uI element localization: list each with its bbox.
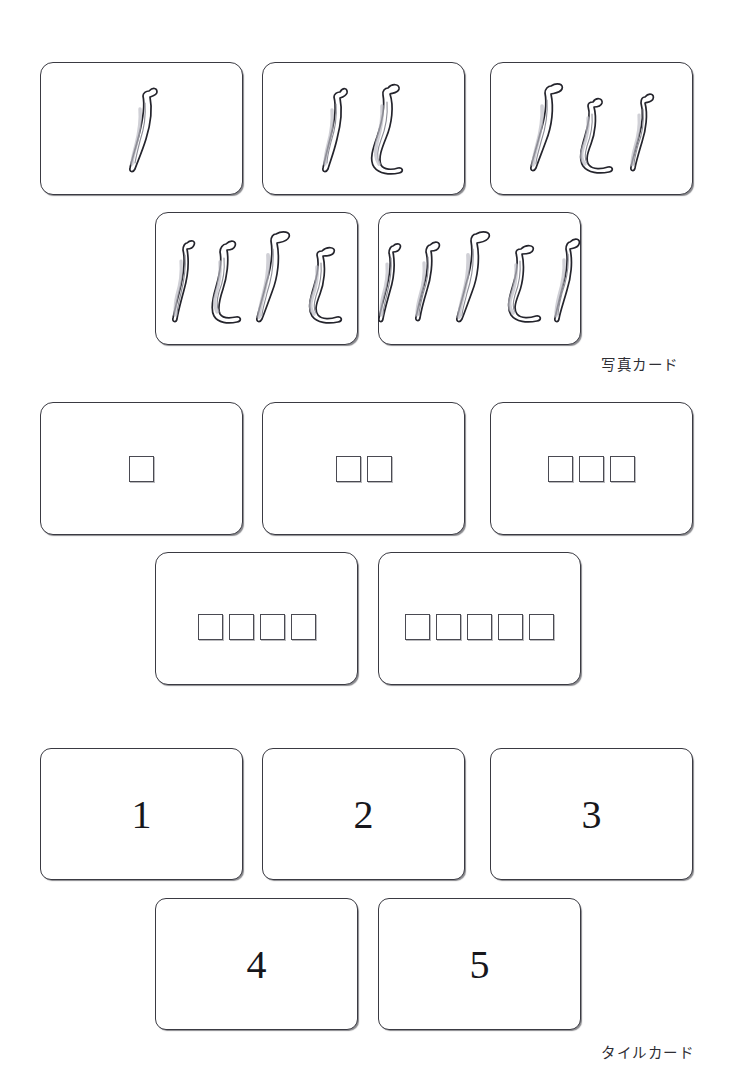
tile-group-2 [263,403,464,534]
banana-icon [119,83,165,175]
tile-square [129,456,154,482]
photo-card-2[interactable] [262,62,465,195]
numeral-value: 5 [379,899,580,1029]
tile-group-4 [156,561,357,692]
number-card-5[interactable]: 5 [378,898,581,1030]
section-number-cards: 1 2 3 4 5 数字カード [0,725,741,1045]
tile-square [436,614,461,640]
banana-icon [166,233,202,325]
caption-photo-cards: 写真カード [601,353,679,374]
tile-square [405,614,430,640]
tile-square [336,456,361,482]
numeral-value: 4 [156,899,357,1029]
number-card-2[interactable]: 2 [262,748,465,880]
tile-square [229,614,254,640]
numeral-value: 2 [263,749,464,879]
banana-group-1 [41,63,242,194]
tile-group-5 [379,561,580,692]
photo-card-4[interactable] [155,212,358,345]
banana-icon [447,229,495,329]
tile-square [367,456,392,482]
banana-icon [621,83,663,175]
tile-square [467,614,492,640]
banana-icon [246,229,296,329]
section-photo-cards: 写真カード [0,40,741,360]
banana-icon [545,232,587,326]
banana-icon [202,232,246,326]
banana-group-4 [156,213,357,344]
tile-square [260,614,285,640]
photo-card-1[interactable] [40,62,243,195]
card-sheet: 写真カード [0,0,741,1084]
banana-group-3 [491,63,692,194]
number-card-4[interactable]: 4 [155,898,358,1030]
banana-icon [314,82,358,176]
banana-icon [495,233,545,325]
tile-card-3[interactable] [490,402,693,535]
section-tile-cards: タイルカード [0,380,741,690]
banana-icon [407,233,447,325]
banana-icon [296,233,348,325]
banana-group-2 [263,63,464,194]
tile-card-1[interactable] [40,402,243,535]
banana-icon [569,84,621,174]
banana-icon [362,80,414,178]
tile-square [529,614,554,640]
tile-card-5[interactable] [378,552,581,685]
number-card-3[interactable]: 3 [490,748,693,880]
photo-card-3[interactable] [490,62,693,195]
tile-square [198,614,223,640]
tile-square [291,614,316,640]
tile-square [610,456,635,482]
tile-card-4[interactable] [155,552,358,685]
tile-group-1 [41,403,242,534]
tile-square [548,456,573,482]
photo-card-5[interactable] [378,212,581,345]
tile-group-3 [491,403,692,534]
numeral-value: 3 [491,749,692,879]
tile-card-2[interactable] [262,402,465,535]
number-card-1[interactable]: 1 [40,748,243,880]
numeral-value: 1 [41,749,242,879]
banana-icon [521,80,569,178]
tile-square [579,456,604,482]
tile-square [498,614,523,640]
banana-group-5 [379,213,580,344]
banana-icon [373,234,407,324]
